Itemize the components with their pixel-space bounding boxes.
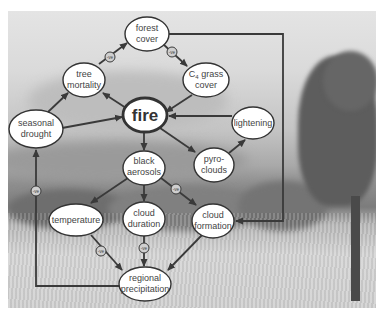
node-label: precipitation bbox=[121, 284, 170, 294]
badge-mortality-forest: -ve bbox=[105, 52, 115, 62]
node-label: drought bbox=[21, 129, 52, 139]
node-label: mortality bbox=[67, 80, 102, 90]
edge-fire-to-pyroclouds bbox=[160, 128, 195, 152]
node-cloud-formation: cloud formation bbox=[192, 204, 234, 238]
node-label: lightening bbox=[234, 118, 273, 128]
node-label: forest bbox=[136, 23, 159, 33]
node-label: clouds bbox=[201, 165, 228, 175]
edge-drought-to-fire bbox=[62, 117, 122, 128]
badge-label: -ve bbox=[107, 55, 114, 60]
node-label: aerosols bbox=[127, 167, 162, 177]
node-label: tree bbox=[76, 69, 92, 79]
node-label: duration bbox=[128, 219, 161, 229]
nodes: forest cover tree mortality C4 grass cov… bbox=[9, 17, 274, 301]
edge-drought-to-mortality bbox=[48, 93, 68, 112]
node-regional-precipitation: regional precipitation bbox=[119, 267, 171, 301]
node-label: cloud bbox=[202, 210, 224, 220]
edge-c4-to-fire bbox=[166, 95, 192, 112]
feedback-diagram: -ve -ve -ve -ve -ve -ve forest cover bbox=[0, 0, 383, 319]
node-cloud-duration: cloud duration bbox=[123, 202, 165, 236]
badge-label: -ve bbox=[141, 246, 148, 251]
badge-aerosols-cloudformation: -ve bbox=[171, 184, 181, 194]
edge-fire-to-mortality bbox=[103, 93, 126, 108]
node-seasonal-drought: seasonal drought bbox=[9, 110, 63, 148]
badge-cloudduration-precip: -ve bbox=[139, 243, 149, 253]
badge-label: -ve bbox=[98, 249, 105, 254]
badge-temperature-precip: -ve bbox=[96, 246, 106, 256]
node-label: temperature bbox=[52, 215, 101, 225]
node-forest-cover: forest cover bbox=[125, 17, 169, 51]
node-label: formation bbox=[194, 221, 232, 231]
badge-forest-c4: -ve bbox=[167, 47, 177, 57]
node-label: C4 grass bbox=[189, 69, 224, 80]
badge-label: -ve bbox=[173, 187, 180, 192]
node-pyro-clouds: pyro- clouds bbox=[194, 148, 234, 182]
badge-label: -ve bbox=[33, 189, 40, 194]
node-tree-mortality: tree mortality bbox=[63, 63, 105, 97]
node-label: cover bbox=[136, 34, 158, 44]
node-label: cover bbox=[195, 80, 217, 90]
node-lightening: lightening bbox=[232, 107, 274, 139]
badge-label: -ve bbox=[169, 50, 176, 55]
node-c4-grass-cover: C4 grass cover bbox=[183, 63, 229, 97]
node-fire: fire bbox=[123, 98, 167, 132]
node-black-aerosols: black aerosols bbox=[123, 151, 165, 185]
node-label: cloud bbox=[133, 208, 155, 218]
node-label: fire bbox=[132, 106, 158, 125]
node-label: seasonal bbox=[18, 118, 54, 128]
node-label: pyro- bbox=[204, 154, 225, 164]
edge-temperature-to-precip bbox=[91, 235, 122, 270]
node-temperature: temperature bbox=[49, 204, 103, 236]
node-label: regional bbox=[129, 273, 161, 283]
node-label: black bbox=[133, 156, 155, 166]
badge-precip-drought: -ve bbox=[31, 186, 41, 196]
edge-pyroclouds-to-lightening bbox=[229, 140, 245, 153]
edge-cloudformation-to-precip bbox=[168, 235, 202, 270]
edge-aerosols-to-temperature bbox=[91, 178, 128, 203]
